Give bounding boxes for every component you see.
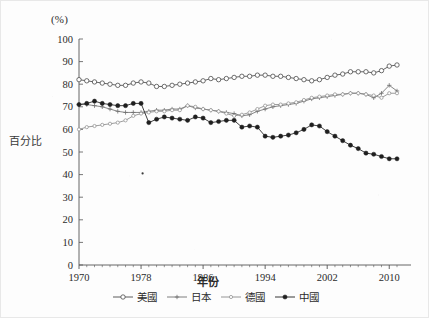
legend-item-label: 美國	[137, 289, 157, 304]
data-point-marker	[108, 122, 111, 125]
series-layer	[77, 63, 399, 161]
data-point-marker	[201, 116, 205, 120]
data-point-marker	[283, 294, 287, 298]
y-tick-label: 70	[63, 101, 74, 112]
data-point-marker	[224, 118, 228, 122]
data-point-marker	[178, 109, 181, 112]
data-point-marker	[372, 152, 376, 156]
data-point-marker	[294, 76, 298, 80]
data-point-marker	[123, 104, 127, 108]
data-point-marker	[318, 95, 321, 98]
data-point-marker	[333, 73, 337, 77]
data-point-marker	[349, 92, 352, 95]
line-chart-plot: 0102030405060708090100197019781986199420…	[1, 1, 429, 318]
y-tick-label: 100	[57, 34, 73, 45]
data-point-marker	[147, 81, 151, 85]
data-point-marker	[240, 113, 243, 116]
data-point-marker	[85, 101, 89, 105]
data-point-marker	[240, 125, 244, 129]
data-point-marker	[279, 134, 283, 138]
data-point-marker	[356, 147, 360, 151]
data-point-marker	[379, 154, 383, 158]
data-point-marker	[124, 119, 127, 122]
data-point-marker	[217, 119, 221, 123]
y-tick-label: 60	[63, 124, 74, 135]
data-point-marker	[92, 99, 96, 103]
data-point-marker	[147, 121, 151, 125]
data-point-marker	[232, 118, 236, 122]
data-point-marker	[379, 68, 383, 72]
legend-item[interactable]: 日本	[166, 289, 211, 304]
data-point-marker	[286, 75, 290, 79]
data-point-marker	[108, 107, 112, 111]
data-point-marker	[154, 117, 158, 121]
data-point-marker	[325, 130, 329, 134]
data-point-marker	[255, 125, 259, 129]
data-point-marker	[271, 74, 275, 78]
data-point-marker	[348, 143, 352, 147]
data-point-marker	[309, 79, 313, 83]
legend-item[interactable]: 中國	[274, 289, 319, 304]
x-tick-label: 1986	[193, 272, 214, 283]
data-point-marker	[317, 124, 321, 128]
data-point-marker	[185, 118, 189, 122]
data-point-marker	[185, 81, 189, 85]
data-point-marker	[139, 80, 143, 84]
anomaly-layer	[142, 172, 144, 174]
data-point-marker	[123, 110, 127, 114]
data-point-marker	[317, 77, 321, 81]
data-point-marker	[302, 98, 305, 101]
data-point-marker	[217, 110, 220, 113]
series-line	[79, 85, 397, 116]
data-point-marker	[287, 102, 290, 105]
data-point-marker	[356, 70, 360, 74]
data-point-marker	[201, 79, 205, 83]
x-tick-label: 2010	[379, 272, 400, 283]
data-point-marker	[229, 295, 232, 298]
data-point-marker	[155, 110, 158, 113]
legend-item[interactable]: 美國	[112, 289, 157, 304]
data-point-marker	[194, 105, 197, 108]
data-point-marker	[123, 83, 127, 87]
data-point-marker	[170, 109, 173, 112]
chart-figure: (%) 百分比 年份 01020304050607080901001970197…	[0, 0, 429, 318]
y-tick-label: 10	[63, 237, 74, 248]
data-point-marker	[139, 101, 143, 105]
data-point-marker	[279, 103, 282, 106]
data-point-marker	[209, 121, 213, 125]
data-point-marker	[121, 294, 125, 298]
data-point-marker	[310, 96, 313, 99]
data-point-marker	[209, 109, 212, 112]
data-point-marker	[364, 93, 367, 96]
y-tick-label: 50	[63, 147, 74, 158]
data-point-marker	[341, 72, 345, 76]
data-point-marker	[77, 102, 81, 106]
data-point-marker	[162, 84, 166, 88]
data-point-marker	[100, 81, 104, 85]
data-point-marker	[201, 107, 204, 110]
y-tick-label: 20	[63, 214, 74, 225]
legend-item[interactable]: 德國	[220, 289, 265, 304]
data-point-marker	[264, 104, 267, 107]
data-point-marker	[364, 151, 368, 155]
data-point-marker	[372, 71, 376, 75]
data-point-marker	[348, 70, 352, 74]
data-point-marker	[333, 134, 337, 138]
data-point-marker	[116, 121, 119, 124]
data-point-marker	[256, 107, 259, 110]
data-point-marker	[387, 157, 391, 161]
data-point-marker	[92, 103, 96, 107]
data-point-marker	[372, 94, 375, 97]
data-point-marker	[294, 131, 298, 135]
data-point-marker	[278, 74, 282, 78]
series-line	[79, 101, 397, 159]
data-point-marker	[170, 116, 174, 120]
data-point-marker	[101, 123, 104, 126]
data-point-marker	[178, 117, 182, 121]
legend-marker-icon	[274, 292, 296, 302]
data-point-marker	[240, 74, 244, 78]
data-point-marker	[209, 76, 213, 80]
data-point-marker	[186, 104, 189, 107]
y-tick-label: 30	[63, 192, 74, 203]
data-point-marker	[387, 64, 391, 68]
